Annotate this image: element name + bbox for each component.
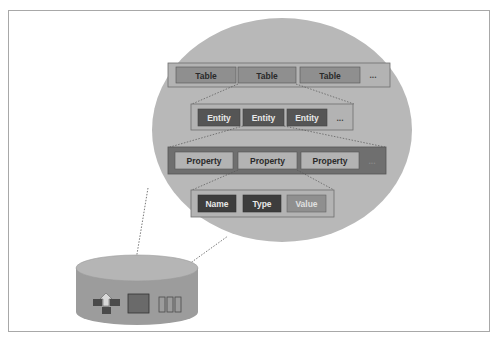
property-row: Property Property Property ... — [168, 147, 386, 174]
cylinder-top — [76, 255, 198, 281]
table-storage-diagram: Table Table Table ... Entity Entity Enti… — [0, 0, 498, 344]
table-more: ... — [369, 70, 376, 80]
property-label-2: Property — [250, 156, 285, 166]
entity-label-3: Entity — [295, 113, 319, 123]
property-label-1: Property — [187, 156, 222, 166]
entity-label-2: Entity — [252, 113, 276, 123]
name-label: Name — [205, 199, 228, 209]
property-more: ... — [368, 156, 375, 166]
table-label-2: Table — [256, 71, 278, 81]
table-label-3: Table — [319, 71, 341, 81]
table-label-1: Table — [195, 71, 217, 81]
attribute-row: Name Type Value — [191, 190, 334, 217]
property-label-3: Property — [313, 156, 348, 166]
table-storage-icon — [128, 294, 149, 313]
entity-more: ... — [336, 113, 343, 123]
value-label: Value — [295, 199, 317, 209]
table-row: Table Table Table ... — [168, 63, 390, 87]
type-label: Type — [252, 199, 271, 209]
entity-label-1: Entity — [207, 113, 231, 123]
storage-cylinder — [76, 255, 198, 325]
entity-row: Entity Entity Entity ... — [191, 104, 353, 130]
